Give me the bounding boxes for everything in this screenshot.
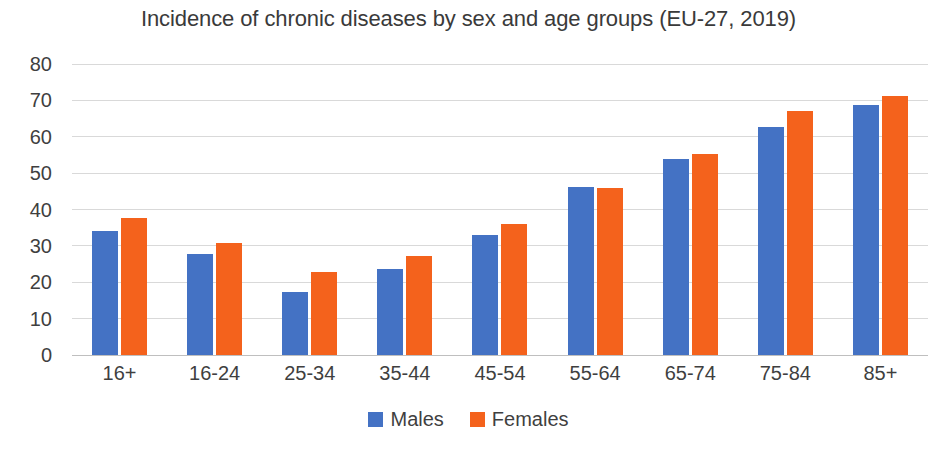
bar-females-16+[interactable] bbox=[121, 218, 147, 355]
y-axis-tick-label: 50 bbox=[30, 162, 52, 185]
bar-group bbox=[167, 64, 262, 355]
y-axis: 80706050403020100 bbox=[0, 64, 62, 355]
bars-layer bbox=[72, 64, 928, 355]
y-axis-tick-label: 80 bbox=[30, 53, 52, 76]
x-axis-tick-label: 45-54 bbox=[474, 362, 525, 385]
y-axis-tick-label: 10 bbox=[30, 307, 52, 330]
bar-females-25-34[interactable] bbox=[311, 272, 337, 355]
bar-group bbox=[738, 64, 833, 355]
y-axis-tick-label: 70 bbox=[30, 89, 52, 112]
y-axis-tick-label: 60 bbox=[30, 125, 52, 148]
chart-title: Incidence of chronic diseases by sex and… bbox=[0, 6, 937, 32]
y-axis-tick-label: 0 bbox=[41, 344, 52, 367]
bar-females-75-84[interactable] bbox=[787, 111, 813, 355]
legend-swatch-females-icon bbox=[470, 412, 485, 427]
legend-item-females[interactable]: Females bbox=[470, 408, 569, 431]
y-axis-tick-label: 30 bbox=[30, 234, 52, 257]
bar-males-16-24[interactable] bbox=[187, 254, 213, 355]
bar-group bbox=[262, 64, 357, 355]
bar-females-45-54[interactable] bbox=[501, 224, 527, 355]
legend-label: Females bbox=[492, 408, 569, 431]
x-axis-tick-label: 35-44 bbox=[379, 362, 430, 385]
x-axis-tick-label: 55-64 bbox=[570, 362, 621, 385]
y-axis-tick-label: 40 bbox=[30, 198, 52, 221]
x-axis-tick-label: 16-24 bbox=[189, 362, 240, 385]
bar-males-85+[interactable] bbox=[853, 105, 879, 355]
bar-males-25-34[interactable] bbox=[282, 292, 308, 355]
bar-males-55-64[interactable] bbox=[568, 187, 594, 355]
bar-group bbox=[548, 64, 643, 355]
legend-label: Males bbox=[390, 408, 443, 431]
chart-container: Incidence of chronic diseases by sex and… bbox=[0, 0, 937, 454]
bar-group bbox=[72, 64, 167, 355]
bar-females-55-64[interactable] bbox=[597, 188, 623, 355]
x-axis-tick-label: 75-84 bbox=[760, 362, 811, 385]
bar-group bbox=[357, 64, 452, 355]
x-axis-tick-label: 16+ bbox=[103, 362, 137, 385]
x-axis: 16+16-2425-3435-4445-5455-6465-7475-8485… bbox=[72, 360, 928, 394]
x-axis-tick-label: 85+ bbox=[863, 362, 897, 385]
bar-females-16-24[interactable] bbox=[216, 243, 242, 355]
legend-item-males[interactable]: Males bbox=[368, 408, 443, 431]
chart-legend: MalesFemales bbox=[0, 408, 937, 431]
bar-females-85+[interactable] bbox=[882, 96, 908, 355]
x-axis-tick-label: 65-74 bbox=[665, 362, 716, 385]
y-axis-tick-label: 20 bbox=[30, 271, 52, 294]
x-axis-tick-label: 25-34 bbox=[284, 362, 335, 385]
bar-males-35-44[interactable] bbox=[377, 269, 403, 355]
bar-males-16+[interactable] bbox=[92, 231, 118, 355]
bar-males-65-74[interactable] bbox=[663, 159, 689, 355]
bar-males-75-84[interactable] bbox=[758, 127, 784, 355]
bar-group bbox=[643, 64, 738, 355]
bar-males-45-54[interactable] bbox=[472, 235, 498, 355]
bar-females-65-74[interactable] bbox=[692, 154, 718, 355]
plot-area bbox=[72, 64, 928, 355]
bar-group bbox=[452, 64, 547, 355]
bar-females-35-44[interactable] bbox=[406, 256, 432, 355]
legend-swatch-males-icon bbox=[368, 412, 383, 427]
bar-group bbox=[833, 64, 928, 355]
